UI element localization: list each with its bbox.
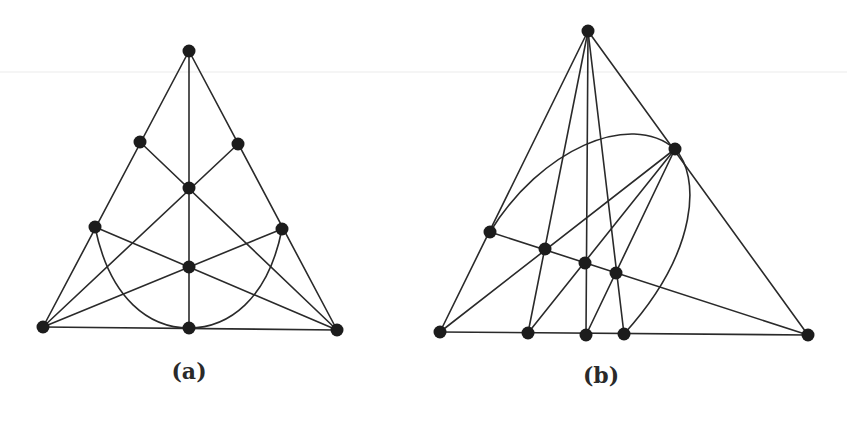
vertex-node <box>331 324 344 337</box>
edge-line <box>588 31 808 335</box>
vertex-node <box>484 226 497 239</box>
vertex-node <box>183 261 196 274</box>
vertex-node <box>183 45 196 58</box>
vertex-node <box>580 329 593 342</box>
edge-line <box>43 51 189 327</box>
vertex-node <box>522 327 535 340</box>
edge-line <box>588 31 624 334</box>
vertex-node <box>610 267 623 280</box>
vertex-node <box>539 243 552 256</box>
vertex-node <box>183 182 196 195</box>
vertex-node <box>434 326 447 339</box>
vertex-node <box>276 223 289 236</box>
vertex-node <box>232 138 245 151</box>
diagram-canvas <box>0 0 847 424</box>
vertex-node <box>89 221 102 234</box>
figure-a-graph <box>37 45 344 337</box>
edge-line <box>43 144 238 327</box>
vertex-node <box>579 257 592 270</box>
vertex-node <box>134 136 147 149</box>
edge-line <box>528 149 675 333</box>
figure-a-caption: (a) <box>171 358 206 384</box>
edge-line <box>440 149 675 332</box>
vertex-node <box>183 322 196 335</box>
vertex-node <box>37 321 50 334</box>
edge-line <box>140 142 337 330</box>
edge-line <box>528 31 588 333</box>
edge-line <box>95 227 337 330</box>
vertex-node <box>669 143 682 156</box>
edge-line <box>586 149 675 335</box>
edge-line <box>189 51 337 330</box>
edge-line <box>43 229 282 327</box>
vertex-node <box>618 328 631 341</box>
conic-curve <box>490 134 690 334</box>
edge-line <box>586 31 588 335</box>
vertex-node <box>802 329 815 342</box>
figure-b-caption: (b) <box>583 362 619 388</box>
vertex-node <box>582 25 595 38</box>
